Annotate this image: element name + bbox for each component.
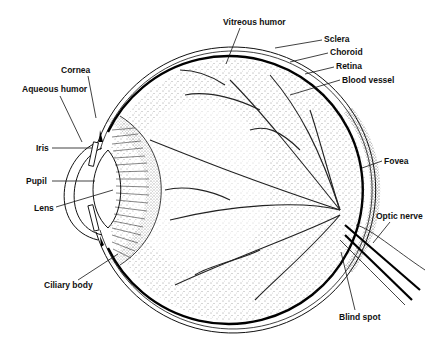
svg-text:Optic nerve: Optic nerve <box>376 211 423 221</box>
label-ciliary-body: Ciliary body <box>44 254 118 290</box>
svg-text:Lens: Lens <box>34 203 54 213</box>
label-retina: Retina <box>305 61 362 74</box>
svg-text:Fovea: Fovea <box>384 156 409 166</box>
svg-text:Blood vessel: Blood vessel <box>342 75 394 85</box>
label-pupil: Pupil <box>26 176 95 186</box>
svg-text:Ciliary body: Ciliary body <box>44 280 93 290</box>
svg-text:Vitreous humor: Vitreous humor <box>223 17 286 27</box>
svg-text:Cornea: Cornea <box>61 65 91 75</box>
svg-text:Aqueous humor: Aqueous humor <box>22 84 88 94</box>
svg-text:Choroid: Choroid <box>330 47 363 57</box>
vitreous-body <box>104 59 375 321</box>
svg-text:Blind spot: Blind spot <box>339 312 381 322</box>
label-choroid: Choroid <box>290 47 363 62</box>
eye-diagram: Vitreous humor Sclera Choroid Retina Blo… <box>0 0 446 345</box>
label-aqueous-humor: Aqueous humor <box>22 84 88 142</box>
svg-text:Sclera: Sclera <box>324 34 350 44</box>
svg-text:Pupil: Pupil <box>26 176 47 186</box>
svg-text:Iris: Iris <box>36 143 49 153</box>
svg-text:Retina: Retina <box>336 61 362 71</box>
label-sclera: Sclera <box>275 34 350 48</box>
